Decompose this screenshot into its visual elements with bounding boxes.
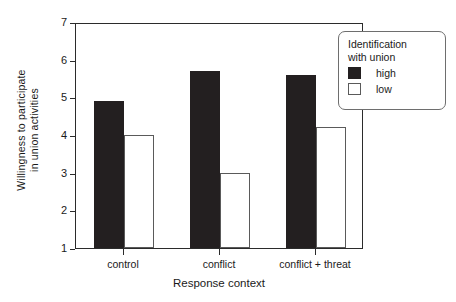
legend-title: Identification with union	[348, 38, 445, 63]
legend: Identification with union high low	[338, 31, 446, 110]
bar-control-high	[94, 101, 124, 248]
x-tick-label: control	[107, 258, 139, 270]
legend-label-high: high	[376, 67, 396, 79]
bar-chart-figure: Willingness to participate in union acti…	[0, 0, 456, 302]
y-tick-label: 4	[49, 130, 67, 141]
y-axis-label-line2: in union activities	[28, 69, 41, 190]
y-axis-label: Willingness to participate in union acti…	[0, 0, 56, 260]
y-tick-mark	[70, 249, 75, 250]
legend-swatch-low-icon	[348, 83, 361, 95]
legend-entry-low: low	[348, 83, 445, 95]
x-tick-label: conflict + threat	[279, 258, 351, 270]
bar-control-low	[124, 135, 154, 248]
x-tick-label: conflict	[203, 258, 236, 270]
plot-area	[75, 23, 363, 249]
bars-container	[76, 24, 362, 248]
y-tick-label: 3	[49, 168, 67, 179]
x-tick-mark	[123, 249, 124, 255]
y-tick-label: 1	[49, 243, 67, 254]
x-axis-label: Response context	[75, 277, 363, 290]
bar-conflict-high	[190, 71, 220, 248]
y-tick-label: 2	[49, 205, 67, 216]
legend-swatch-high-icon	[348, 67, 361, 79]
y-tick-label: 5	[49, 92, 67, 103]
legend-title-line2: with union	[348, 51, 445, 64]
x-tick-mark	[219, 249, 220, 255]
bar-conflict-low	[220, 173, 250, 248]
legend-entry-high: high	[348, 67, 445, 79]
x-tick-mark	[315, 249, 316, 255]
bar-conflict-threat-high	[286, 75, 316, 248]
legend-title-line1: Identification	[348, 38, 407, 50]
y-tick-label: 6	[49, 55, 67, 66]
y-axis-label-line1: Willingness to participate	[15, 69, 27, 190]
y-tick-label: 7	[49, 17, 67, 28]
legend-label-low: low	[376, 83, 392, 95]
bar-conflict-threat-low	[316, 127, 346, 248]
